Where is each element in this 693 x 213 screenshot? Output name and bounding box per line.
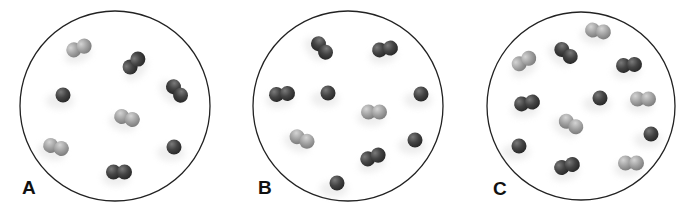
molecule-light — [281, 125, 317, 157]
atom-dark — [634, 127, 662, 149]
atom-dark — [404, 87, 432, 109]
diagram-canvas — [0, 0, 693, 213]
molecule-dark — [300, 30, 336, 67]
atom-dark — [46, 88, 74, 110]
atom-dark — [320, 176, 348, 198]
molecule-light — [579, 21, 612, 47]
molecule-dark — [509, 93, 542, 119]
particle-diagram: ABC — [0, 0, 693, 213]
molecule-dark — [549, 155, 584, 184]
atom-dark — [583, 91, 611, 113]
panel-label-a: A — [22, 178, 36, 197]
panel-label-b: B — [258, 178, 272, 197]
molecule-light — [549, 109, 586, 143]
panel-c — [487, 12, 675, 200]
molecule-dark — [367, 39, 400, 65]
molecule-light — [357, 105, 387, 127]
molecule-light — [626, 92, 656, 114]
molecule-light — [614, 156, 644, 178]
molecule-light — [60, 37, 96, 67]
molecule-dark — [102, 165, 132, 187]
molecule-dark — [544, 36, 581, 72]
molecule-light — [506, 48, 543, 82]
panel-b — [253, 11, 443, 201]
panel-a — [20, 11, 210, 201]
atom-dark — [398, 133, 426, 155]
molecule-dark — [264, 85, 296, 109]
atom-dark — [502, 139, 530, 161]
molecule-dark — [611, 56, 643, 80]
molecule-dark — [155, 73, 191, 110]
atom-dark — [311, 86, 339, 108]
molecule-light — [107, 106, 142, 135]
molecule-dark — [117, 49, 153, 85]
atom-dark — [157, 140, 185, 162]
panel-label-c: C — [493, 179, 507, 198]
molecule-dark — [354, 146, 390, 176]
molecule-light — [36, 135, 71, 164]
